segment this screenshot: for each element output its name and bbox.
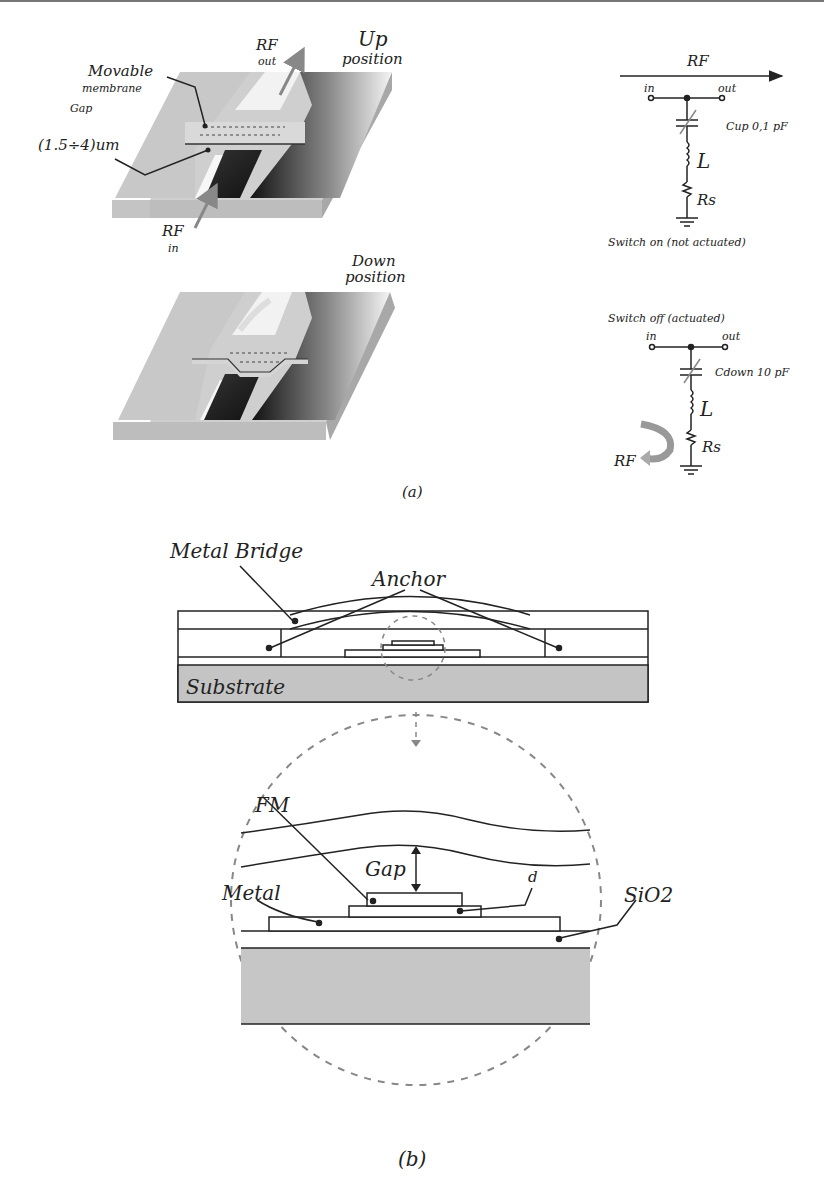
figure-canvas: Movable membrane Gap (1.5÷4)um RF out Up… [0, 0, 824, 1191]
label-movable-line1: Movable [87, 62, 153, 80]
label-substrate: Substrate [186, 675, 285, 699]
circuit-off-cap-label: Cdown 10 pF [715, 366, 790, 379]
circuit-on-out-label: out [718, 82, 737, 95]
label-gap-line1: Gap [70, 102, 92, 115]
label-metal-bridge: Metal Bridge [169, 539, 303, 563]
label-d: d [528, 868, 538, 886]
circuit-on-resistor-label: Rs [696, 191, 716, 209]
circuit-off-in-label: in [646, 330, 657, 343]
label-sio2: SiO2 [624, 883, 673, 907]
caption-b: (b) [398, 1147, 426, 1171]
caption-a: (a) [402, 483, 423, 501]
circuit-on-inductor-label: L [696, 149, 710, 173]
circuit-on-rf-label: RF [686, 52, 709, 70]
label-movable-line2: membrane [82, 82, 142, 95]
circuit-off-inductor-label: L [699, 397, 713, 421]
zoom-arrow-icon [411, 740, 421, 747]
label-down-line2: position [345, 268, 406, 286]
label-gap: Gap [365, 857, 406, 881]
label-rf-in-line1: RF [161, 222, 184, 240]
device-up-position [112, 52, 392, 228]
circuit-off-rf-label: RF [613, 452, 636, 470]
circuit-on-caption: Switch on (not actuated) [608, 236, 746, 249]
cross-section-detail [241, 797, 636, 1024]
label-rf-in-line2: in [168, 242, 179, 255]
circuit-on-in-label: in [644, 82, 655, 95]
label-up-line2: position [342, 50, 403, 68]
circuit-on-cap-label: Cup 0,1 pF [726, 120, 788, 133]
circuit-off-title: Switch off (actuated) [608, 312, 725, 325]
label-rf-out-line2: out [258, 55, 277, 68]
label-rf-out-line1: RF [255, 36, 278, 54]
rf-return-arrowhead-icon [640, 450, 650, 466]
label-up-line1: Up [358, 27, 388, 51]
label-fm: FM [254, 793, 290, 817]
label-gap-line2: (1.5÷4)um [38, 136, 120, 154]
circuit-off-resistor-label: Rs [701, 438, 721, 456]
circuit-off-out-label: out [722, 330, 741, 343]
label-anchor: Anchor [370, 567, 446, 591]
device-down-position [113, 292, 395, 440]
label-metal: Metal [221, 881, 281, 905]
